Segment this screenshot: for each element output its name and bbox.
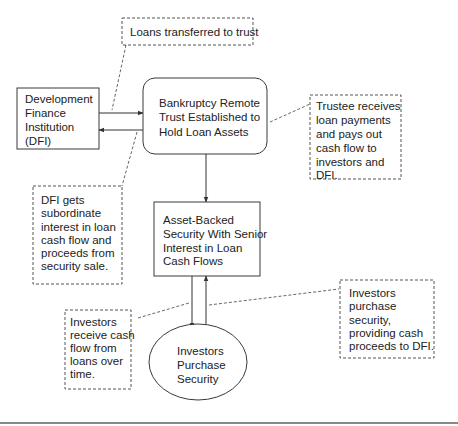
node-text: Cash Flows [163,255,223,267]
node-dfi: Development Finance Institution (DFI) [17,88,99,149]
note-text: DFI gets [41,194,85,206]
note-text: and pays out [316,128,383,140]
note-text: Loans transferred to trust [130,26,259,38]
node-text: Trust Established to [159,111,260,123]
node-text: Bankruptcy Remote [159,97,260,109]
note-text: providing cash [349,327,423,339]
note-investors-purchase: Investors purchase security, providing c… [340,280,434,358]
note-text: Investors [70,316,117,328]
note-text: flow from [70,342,117,354]
node-text: Purchase [177,359,226,371]
note-text: Investors [349,287,396,299]
leader-investors-purchase [209,289,339,305]
leader-investors-receive [138,303,189,318]
note-loans-transferred: Loans transferred to trust [122,18,259,45]
node-abs: Asset-Backed Security With Senior Intere… [154,202,267,276]
node-text: Interest in Loan [163,242,242,254]
note-text: cash flow and [41,234,111,246]
node-text: Security With Senior [163,228,267,240]
node-text: Development [25,93,94,105]
leader-dfi-subordinate [122,132,137,186]
node-text: Investors [177,345,224,357]
leader-loans-transferred [112,45,126,110]
securitization-diagram: Loans transferred to trust Development F… [0,0,458,426]
node-text: Asset-Backed [163,214,234,226]
node-text: Institution [25,121,74,133]
note-trustee: Trustee receives loan payments and pays … [310,95,401,181]
note-text: security, [349,314,391,326]
note-investors-receive: Investors receive cash flow from loans o… [65,310,135,389]
note-text: investors and [316,156,384,168]
node-text: Security [177,373,219,385]
note-text: loans over [70,355,123,367]
node-text: Finance [25,107,66,119]
note-text: proceeds from [41,247,115,259]
note-text: loan payments [316,114,391,126]
note-text: security sale. [41,260,108,272]
node-trust: Bankruptcy Remote Trust Established to H… [143,78,267,154]
note-text: time. [70,368,95,380]
node-text: (DFI) [25,135,51,147]
note-text: Trustee receives [316,100,401,112]
leader-trustee [270,104,310,122]
node-investors: Investors Purchase Security [149,324,247,400]
note-dfi-subordinate: DFI gets subordinate interest in loan ca… [33,186,122,284]
note-text: receive cash [70,329,135,341]
note-text: interest in loan [41,221,116,233]
note-text: purchase [349,300,396,312]
note-text: DFI. [316,169,338,181]
note-text: subordinate [41,207,101,219]
note-text: cash flow to [316,142,377,154]
node-text: Hold Loan Assets [159,126,249,138]
note-text: proceeds to DFI. [349,340,434,352]
